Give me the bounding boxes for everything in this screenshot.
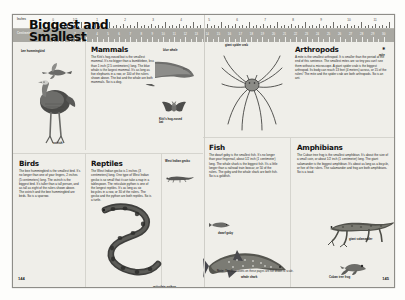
ruler-inch-tick: [197, 26, 198, 28]
amphibians-body: The Cuban tree frog is the smallest amph…: [297, 153, 389, 174]
section-arthropods: Arthropods A mite is the smallest arthro…: [295, 46, 389, 80]
book-spread: Inches 0 1/2 1 2 3 4 5 6 7 8 9 10 11 Cen…: [12, 14, 395, 288]
ruler-inches-label: Inches: [17, 18, 26, 21]
ruler-inch-tick: [305, 22, 306, 28]
amphibians-heading: Amphibians: [297, 144, 389, 151]
ruler-cm-number: 20: [272, 32, 275, 36]
ruler-inch-tick: [361, 22, 362, 28]
ruler-cm-number: 13: [195, 32, 198, 36]
ruler-cm-number: 12: [184, 32, 187, 36]
ruler-inch-tick: [218, 26, 219, 28]
ruler-cm-number: 19: [261, 32, 264, 36]
ruler-inch-tick: [312, 25, 313, 28]
ruler-inch-tick: [284, 25, 285, 28]
ruler-cm-number: 30: [382, 32, 385, 36]
caption-reticulate-python: reticulate python: [153, 286, 176, 288]
arthropods-body: A mite is the smallest arthropod. It is …: [295, 55, 389, 80]
ruler-cm-number: 25: [327, 32, 330, 36]
ruler-inch-tick-5: 5: [208, 18, 210, 22]
ruler-inch-tick: [200, 25, 201, 28]
ruler-inch-tick-11: 11: [373, 18, 376, 22]
ruler-inch-tick: [165, 22, 166, 28]
ruler-inch-tick: [347, 24, 348, 29]
ruler-cm-number: 11: [173, 32, 176, 36]
ruler-inch-tick: [291, 24, 292, 29]
ruler-inch-tick: [368, 25, 369, 28]
ruler-inch-tick: [169, 26, 170, 28]
section-mammals: Mammals The Kitti's hog-nosed bat is the…: [91, 46, 155, 84]
ruler-inch-tick-7: 7: [264, 18, 266, 22]
ruler-inch-tick: [260, 26, 261, 28]
ruler-inch-tick: [249, 22, 250, 28]
ruler-inch-tick: [246, 26, 247, 28]
west-indian-gecko-illustration: [163, 172, 195, 184]
ruler-inch-tick: [323, 26, 324, 28]
section-birds: Birds The bee hummingbird is the smalles…: [19, 160, 81, 198]
ruler-inch-tick: [158, 25, 159, 28]
book-gutter: [204, 15, 205, 287]
mammals-body: The Kitti's hog-nosed bat is the smalles…: [91, 55, 155, 84]
ruler-inch-tick: [151, 24, 152, 29]
ruler-inch-tick: [337, 26, 338, 28]
ruler-inch-tick: [235, 24, 236, 29]
ruler-inch-tick: [277, 22, 278, 28]
ruler-inch-tick: [256, 25, 257, 28]
divider-right-a: [290, 138, 291, 287]
ruler-inch-tick: [344, 26, 345, 28]
mite-marker-icon: ✱: [382, 47, 385, 51]
ruler-inch-tick: [155, 26, 156, 28]
ruler-inch-tick: [389, 22, 390, 28]
caption-dwarf-goby: dwarf goby: [218, 232, 233, 235]
section-amphibians: Amphibians The Cuban tree frog is the sm…: [297, 144, 389, 174]
scale-note: Note: The illustrations on these pages a…: [217, 269, 293, 273]
ruler-inch-tick: [211, 26, 212, 28]
ruler-inch-tick: [326, 25, 327, 28]
mammals-heading: Mammals: [91, 46, 155, 53]
ruler-inch-tick: [214, 25, 215, 28]
ruler-inch-tick: [207, 24, 208, 29]
scale-note-label: Note:: [217, 269, 224, 273]
ruler-inch-tick: [221, 22, 222, 28]
ruler-inch-tick: [379, 26, 380, 28]
ruler-cm-number: 9: [151, 32, 153, 36]
ruler-cm-number: 29: [371, 32, 374, 36]
arthropods-heading: Arthropods: [295, 46, 389, 53]
cuban-tree-frog-illustration: [337, 260, 367, 276]
ruler-cm-number: 24: [316, 32, 319, 36]
birds-heading: Birds: [19, 160, 81, 167]
caption-cuban-tree-frog: Cuban tree frog: [329, 276, 350, 279]
ruler-cm-number: 10: [162, 32, 165, 36]
giant-spider-crab-illustration: [216, 54, 288, 132]
caption-bee-hummingbird: bee hummingbird: [21, 50, 45, 53]
ruler-cm-number: 26: [338, 32, 341, 36]
ruler-cm-number: 27: [349, 32, 352, 36]
ruler-inch-tick: [386, 26, 387, 28]
ruler-inch-tick: [225, 26, 226, 28]
ruler-inch-tick-10: 10: [347, 18, 350, 22]
reptiles-body: The West Indian gecko is 1 inches (3 cen…: [91, 169, 153, 202]
ruler-inch-tick: [316, 26, 317, 28]
divider-left-b: [85, 154, 86, 287]
caption-mite: mite: [379, 54, 385, 57]
ruler-inch-tick: [319, 24, 320, 29]
ruler-inch-tick: [253, 26, 254, 28]
ruler-inch-tick-8: 8: [292, 18, 294, 22]
ruler-inch-tick: [298, 25, 299, 28]
ruler-inch-tick: [358, 26, 359, 28]
caption-giant-salamander: giant salamander: [349, 238, 372, 241]
ruler-inch-tick: [176, 26, 177, 28]
ruler-inch-tick: [354, 25, 355, 28]
ruler-cm-number: 22: [294, 32, 297, 36]
ruler-cm-number: 15: [217, 32, 220, 36]
ruler-cm-number: 21: [283, 32, 286, 36]
giant-salamander-illustration: [325, 214, 395, 248]
ruler-inch-tick: [351, 26, 352, 28]
caption-ostrich: ostrich: [53, 142, 62, 145]
reticulate-python-illustration: [95, 202, 163, 284]
ruler-inch-tick: [186, 25, 187, 28]
folio-left: 144: [18, 276, 25, 281]
birds-body: The bee hummingbird is the smallest bird…: [19, 169, 81, 198]
ruler-inch-tick: [375, 24, 376, 29]
page-title: Biggest and Smallest: [29, 19, 149, 42]
ruler-inch-tick-3: 3: [152, 18, 154, 22]
